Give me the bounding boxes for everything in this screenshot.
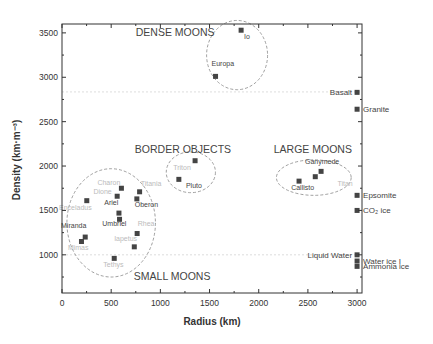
reference-label: Liquid Water <box>307 251 352 260</box>
group-label: SMALL MOONS <box>134 270 211 282</box>
x-tick-label: 2000 <box>249 298 268 308</box>
data-marker <box>112 256 117 261</box>
reference-marker <box>355 107 360 112</box>
axes: 0500100015002000250030001000150020002500… <box>39 24 367 308</box>
point-label: Charon <box>97 179 120 186</box>
reference-label: Ammonia ice <box>363 262 410 271</box>
point-label: Miranda <box>61 222 86 229</box>
y-tick-label: 1500 <box>39 205 58 215</box>
y-tick-label: 3000 <box>39 72 58 82</box>
moon-density-scatter: DENSE MOONSBORDER OBJECTSLARGE MOONSSMAL… <box>0 0 433 344</box>
data-marker <box>132 244 137 249</box>
point-label: Europa <box>212 60 235 68</box>
group-labels: DENSE MOONSBORDER OBJECTSLARGE MOONSSMAL… <box>134 26 352 282</box>
data-marker <box>297 179 302 184</box>
data-marker <box>79 239 84 244</box>
x-tick-label: 1500 <box>200 298 219 308</box>
point-label: Callisto <box>291 184 314 191</box>
data-marker <box>313 174 318 179</box>
point-label: Oberon <box>135 201 158 208</box>
point-label: Tethys <box>103 261 124 269</box>
x-tick-label: 1000 <box>151 298 170 308</box>
data-points: IoEuropaTritonPlutoGanymedeTitanCallisto… <box>59 28 410 272</box>
y-axis-title: Density (km·m⁻³) <box>11 120 22 201</box>
point-label: Titania <box>141 180 162 187</box>
point-label: Io <box>244 33 250 40</box>
data-marker <box>115 194 120 199</box>
data-marker <box>239 28 244 33</box>
point-label: Rhea <box>138 220 155 227</box>
data-marker <box>116 211 121 216</box>
point-label: Titan <box>337 180 352 187</box>
group-label: DENSE MOONS <box>136 26 215 38</box>
reference-label: Granite <box>363 105 390 114</box>
point-label: Umbriel <box>102 220 127 227</box>
group-label: BORDER OBJECTS <box>135 143 231 155</box>
x-axis-title: Radius (km) <box>183 316 240 327</box>
reference-marker <box>355 264 360 269</box>
x-tick-label: 0 <box>60 298 65 308</box>
point-label: Ganymede <box>305 158 339 166</box>
data-marker <box>193 158 198 163</box>
y-tick-label: 2500 <box>39 117 58 127</box>
point-label: Enceladus <box>59 204 92 211</box>
y-tick-label: 3500 <box>39 28 58 38</box>
reference-lines <box>62 92 362 255</box>
group-ellipse <box>207 20 268 89</box>
data-marker <box>84 198 89 203</box>
y-tick-label: 1000 <box>39 250 58 260</box>
point-label: Dione <box>93 188 111 195</box>
reference-label: Basalt <box>330 88 353 97</box>
reference-marker <box>355 90 360 95</box>
reference-label: CO₂ ice <box>363 206 391 215</box>
reference-marker <box>355 259 360 264</box>
point-label: Pluto <box>186 182 202 189</box>
x-tick-label: 500 <box>104 298 118 308</box>
reference-label: Epsomite <box>363 191 397 200</box>
data-marker <box>137 189 142 194</box>
x-tick-label: 2500 <box>298 298 317 308</box>
data-marker <box>213 74 218 79</box>
point-label: Triton <box>173 164 191 171</box>
data-marker <box>176 177 181 182</box>
data-marker <box>319 169 324 174</box>
data-marker <box>83 235 88 240</box>
point-label: Ariel <box>104 199 118 206</box>
group-label: LARGE MOONS <box>274 143 352 155</box>
x-tick-label: 3000 <box>348 298 367 308</box>
point-label: Mimas <box>68 244 89 251</box>
y-tick-label: 2000 <box>39 161 58 171</box>
point-label: Iapetus <box>114 235 137 243</box>
reference-marker <box>355 193 360 198</box>
data-marker <box>119 186 124 191</box>
